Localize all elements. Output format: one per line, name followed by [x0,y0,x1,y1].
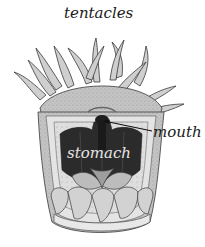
mouth-label: mouth [153,125,202,140]
anemone-diagram: tentacles mouth stomach [0,0,205,247]
oral-disc [40,86,162,116]
tentacles-label: tentacles [64,6,133,21]
stomach-label: stomach [67,146,131,161]
